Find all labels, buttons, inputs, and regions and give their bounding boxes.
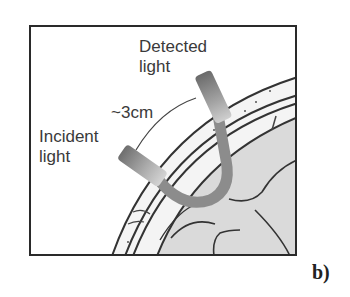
incident-light-probe xyxy=(117,144,168,187)
detected-label-line1: Detected xyxy=(139,37,207,56)
incident-label-line2: light xyxy=(39,147,70,166)
incident-label-line1: Incident xyxy=(39,127,99,146)
detected-label-line2: light xyxy=(139,57,170,76)
detected-light-probe xyxy=(194,70,232,125)
panel-label: b) xyxy=(312,261,330,284)
distance-label: ~3cm xyxy=(111,103,153,122)
nirs-diagram: Detected light ~3cm Incident light b) xyxy=(0,0,350,297)
